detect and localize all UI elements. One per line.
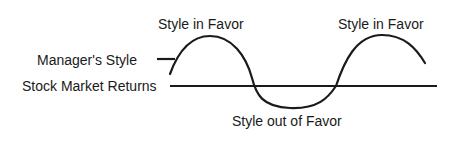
style-cycle-diagram: Style in Favor Style in Favor Manager's … xyxy=(0,0,460,168)
stock-market-returns-label: Stock Market Returns xyxy=(22,78,157,94)
style-in-favor-label-1: Style in Favor xyxy=(158,16,244,32)
style-in-favor-label-2: Style in Favor xyxy=(338,16,424,32)
managers-style-curve xyxy=(170,35,425,108)
style-out-of-favor-label: Style out of Favor xyxy=(232,113,342,129)
managers-style-label: Manager's Style xyxy=(37,52,137,68)
